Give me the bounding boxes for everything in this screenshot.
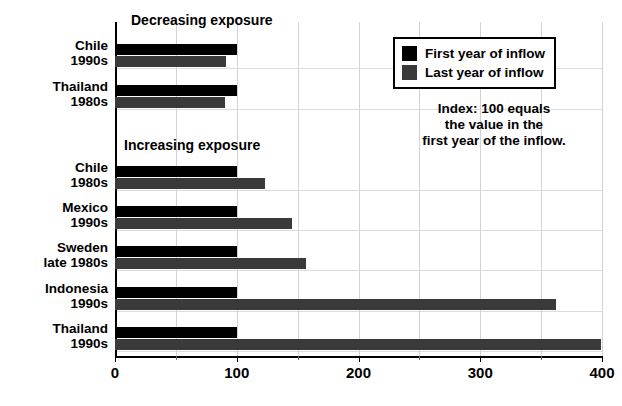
bar-first-year <box>115 327 237 338</box>
category-label-period: 1980s <box>0 94 108 109</box>
category-label-country: Mexico <box>0 200 108 215</box>
x-axis-tick <box>237 356 238 362</box>
gridline-horizontal <box>115 351 602 352</box>
x-axis-tick <box>602 356 603 362</box>
bar-last-year <box>115 218 292 229</box>
category-label: Indonesia1990s <box>0 281 108 311</box>
legend-label-last-year: Last year of inflow <box>425 65 544 80</box>
legend-item-first-year: First year of inflow <box>402 44 545 63</box>
x-axis-minor-tick <box>419 356 420 360</box>
x-axis-minor-tick <box>298 356 299 360</box>
bar-first-year <box>115 287 237 298</box>
category-label-period: 1990s <box>0 53 108 68</box>
category-label-country: Chile <box>0 38 108 53</box>
section-title-decreasing: Decreasing exposure <box>131 12 273 28</box>
x-axis-minor-tick <box>541 356 542 360</box>
index-note-line-3: first year of the inflow. <box>380 133 608 149</box>
x-axis-tick-label: 200 <box>346 364 371 381</box>
bar-last-year <box>115 258 306 269</box>
category-label-period: 1990s <box>0 296 108 311</box>
x-axis-tick-label: 300 <box>468 364 493 381</box>
gridline-horizontal <box>115 270 602 271</box>
legend-swatch-last-year-icon <box>402 65 417 80</box>
category-label-period: 1990s <box>0 336 108 351</box>
category-label: Chile1990s <box>0 38 108 68</box>
index-note: Index: 100 equals the value in the first… <box>380 101 608 149</box>
category-label: Swedenlate 1980s <box>0 240 108 270</box>
category-label-country: Thailand <box>0 321 108 336</box>
category-label-country: Chile <box>0 160 108 175</box>
category-label-period: 1990s <box>0 215 108 230</box>
x-axis-tick-label: 400 <box>589 364 614 381</box>
category-label: Thailand1980s <box>0 79 108 109</box>
category-label: Chile1980s <box>0 160 108 190</box>
x-axis-tick-label: 100 <box>224 364 249 381</box>
section-title-increasing: Increasing exposure <box>124 137 260 153</box>
legend-item-last-year: Last year of inflow <box>402 63 545 82</box>
category-label-period: late 1980s <box>0 255 108 270</box>
bar-last-year <box>115 178 265 189</box>
bar-first-year <box>115 206 237 217</box>
gridline-vertical <box>602 22 603 356</box>
bar-first-year <box>115 85 237 96</box>
category-label-country: Thailand <box>0 79 108 94</box>
index-note-line-2: the value in the <box>380 117 608 133</box>
category-label-period: 1980s <box>0 175 108 190</box>
x-axis-tick-label: 0 <box>111 364 119 381</box>
index-note-line-1: Index: 100 equals <box>380 101 608 117</box>
bar-chart: 0100200300400 Chile1990sThailand1980sChi… <box>0 0 622 406</box>
category-label-country: Indonesia <box>0 281 108 296</box>
x-axis-tick <box>115 356 116 362</box>
bar-first-year <box>115 166 237 177</box>
category-label: Mexico1990s <box>0 200 108 230</box>
x-axis-tick <box>480 356 481 362</box>
x-axis-tick <box>359 356 360 362</box>
category-label-country: Sweden <box>0 240 108 255</box>
x-axis-minor-tick <box>176 356 177 360</box>
gridline-horizontal <box>115 230 602 231</box>
gridline-horizontal <box>115 190 602 191</box>
legend-swatch-first-year-icon <box>402 46 417 61</box>
bar-last-year <box>115 339 601 350</box>
bar-last-year <box>115 56 226 67</box>
bar-last-year <box>115 299 556 310</box>
bar-first-year <box>115 44 237 55</box>
bar-last-year <box>115 97 225 108</box>
category-label: Thailand1990s <box>0 321 108 351</box>
legend: First year of inflow Last year of inflow <box>393 37 556 89</box>
gridline-horizontal <box>115 311 602 312</box>
bar-first-year <box>115 246 237 257</box>
legend-label-first-year: First year of inflow <box>425 46 545 61</box>
